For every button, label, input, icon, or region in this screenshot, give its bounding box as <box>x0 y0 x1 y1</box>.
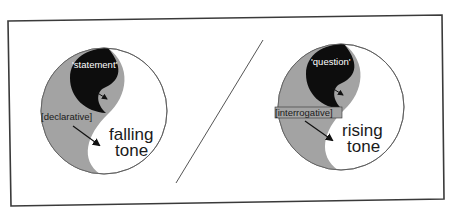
left-tone-line2: tone <box>115 141 148 160</box>
right-quoted-label: 'question' <box>311 56 351 67</box>
left-bracket-label: [declarative] <box>41 111 92 122</box>
diagram-canvas: 'statement' [declarative] falling tone '… <box>0 0 453 217</box>
right-tone-line2: tone <box>347 137 380 156</box>
left-quoted-label: 'statement' <box>72 59 118 70</box>
right-bracket-label: [interrogative] <box>275 107 333 118</box>
left-yin-yang: 'statement' [declarative] falling tone <box>41 48 167 174</box>
